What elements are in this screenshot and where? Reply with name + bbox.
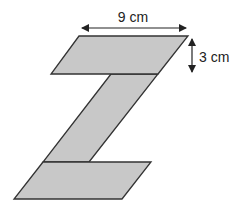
top-parallelogram — [51, 36, 188, 74]
bottom-parallelogram — [14, 162, 151, 199]
height-label: 3 cm — [199, 49, 229, 65]
diagram-canvas: 9 cm 3 cm — [0, 0, 249, 207]
z-shape-figure: 9 cm 3 cm — [0, 0, 249, 207]
width-label: 9 cm — [118, 9, 148, 25]
middle-strip — [43, 74, 158, 162]
